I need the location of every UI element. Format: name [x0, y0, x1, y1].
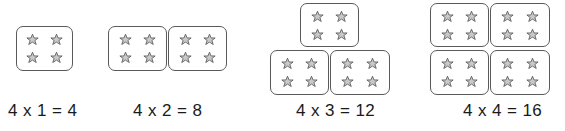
star-outline-icon	[465, 57, 478, 70]
star-outline-icon	[26, 51, 39, 64]
star-grid	[491, 51, 549, 94]
star-outline-icon	[366, 57, 379, 70]
star-outline-icon	[465, 75, 478, 88]
star-outline-icon	[441, 75, 454, 88]
star-outline-icon	[50, 33, 63, 46]
star-outline-icon	[311, 10, 324, 23]
star-outline-icon	[119, 33, 132, 46]
star-outline-icon	[501, 10, 514, 23]
star-box	[168, 26, 227, 71]
star-outline-icon	[441, 28, 454, 41]
equation-label: 4 x 3 = 12	[296, 101, 375, 121]
star-outline-icon	[179, 33, 192, 46]
star-outline-icon	[366, 75, 379, 88]
star-grid	[109, 27, 166, 70]
star-outline-icon	[441, 10, 454, 23]
star-box	[430, 3, 489, 47]
star-outline-icon	[465, 28, 478, 41]
star-outline-icon	[143, 51, 156, 64]
star-outline-icon	[179, 51, 192, 64]
star-grid	[301, 4, 358, 46]
star-outline-icon	[526, 75, 539, 88]
star-outline-icon	[335, 10, 348, 23]
multiplication-groups-figure: 4 x 1 = 44 x 2 = 84 x 3 = 124 x 4 = 16	[0, 0, 565, 131]
star-box	[108, 26, 167, 71]
star-outline-icon	[203, 51, 216, 64]
star-box	[330, 50, 390, 95]
star-outline-icon	[203, 33, 216, 46]
star-grid	[169, 27, 226, 70]
star-outline-icon	[501, 28, 514, 41]
star-outline-icon	[119, 51, 132, 64]
star-outline-icon	[526, 57, 539, 70]
equation-label: 4 x 1 = 4	[8, 101, 77, 121]
star-outline-icon	[50, 51, 63, 64]
star-box	[430, 50, 489, 95]
star-box	[300, 3, 359, 47]
star-grid	[271, 51, 328, 94]
star-outline-icon	[143, 33, 156, 46]
star-outline-icon	[335, 28, 348, 41]
star-grid	[431, 4, 488, 46]
star-outline-icon	[341, 75, 354, 88]
star-box	[490, 50, 550, 95]
star-outline-icon	[305, 75, 318, 88]
star-grid	[431, 51, 488, 94]
star-outline-icon	[341, 57, 354, 70]
star-box	[490, 3, 550, 47]
star-box	[16, 26, 73, 71]
star-outline-icon	[441, 57, 454, 70]
star-outline-icon	[501, 57, 514, 70]
star-box	[270, 50, 329, 95]
star-outline-icon	[311, 28, 324, 41]
equation-label: 4 x 2 = 8	[133, 101, 202, 121]
star-outline-icon	[281, 57, 294, 70]
star-outline-icon	[305, 57, 318, 70]
star-outline-icon	[526, 10, 539, 23]
star-outline-icon	[526, 28, 539, 41]
star-outline-icon	[465, 10, 478, 23]
star-grid	[491, 4, 549, 46]
star-grid	[17, 27, 72, 70]
star-grid	[331, 51, 389, 94]
star-outline-icon	[281, 75, 294, 88]
star-outline-icon	[501, 75, 514, 88]
star-outline-icon	[26, 33, 39, 46]
equation-label: 4 x 4 = 16	[463, 101, 542, 121]
